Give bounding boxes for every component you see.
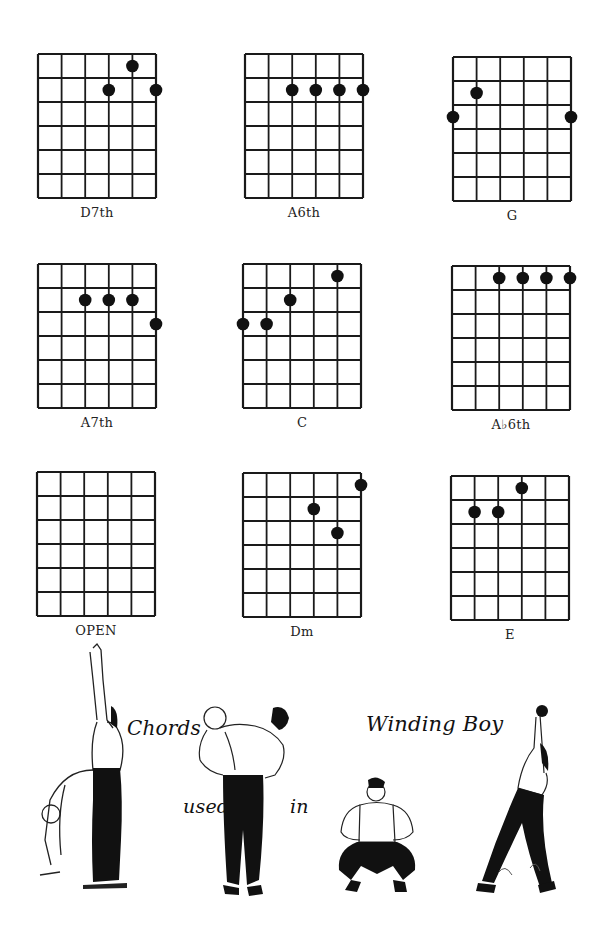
chord-label: OPEN [37,623,155,638]
fretboard-grid [245,54,363,198]
finger-dot [565,111,578,124]
finger-dot [286,84,299,97]
chord-label: A6th [245,205,363,220]
fretboard-grid [243,264,361,408]
finger-dot [310,84,323,97]
finger-dot [126,294,139,307]
finger-dot [150,84,163,97]
chord-label: E [451,627,569,642]
chord-label: A7th [38,415,156,430]
chord-label: G [453,208,571,223]
chord-grid [38,264,156,408]
finger-dot [260,318,273,331]
chord-diagram-g: G [453,57,571,201]
chord-label: A♭6th [452,417,570,432]
fretboard-grid [38,54,156,198]
fretboard-grid [243,473,361,617]
chord-label: Dm [243,624,361,639]
finger-dot [79,294,92,307]
illustration-squatting-figure [335,770,425,900]
finger-dot [284,294,297,307]
chord-diagram-dm: Dm [243,473,361,617]
finger-dot [237,318,250,331]
chord-diagram-c: C [243,264,361,408]
illustration-stretching-figures [35,640,135,895]
chord-label: C [243,415,361,430]
finger-dot [103,84,116,97]
chord-diagram-open: OPEN [37,472,155,616]
finger-dot [447,111,460,124]
chord-grid [37,472,155,616]
chord-diagram-a6th: A6th [245,54,363,198]
chord-grid [245,54,363,198]
finger-dot [308,503,321,516]
chord-label: D7th [38,205,156,220]
chord-diagram-d7th: D7th [38,54,156,198]
finger-dot [331,270,344,283]
finger-dot [357,84,370,97]
caption-chords: Chords [127,716,201,740]
fretboard-grid [452,266,570,410]
finger-dot [564,272,577,285]
illustration-lifting-figures [195,700,295,900]
chord-grid [243,473,361,617]
finger-dot [493,272,506,285]
fretboard-grid [38,264,156,408]
finger-dot [150,318,163,331]
finger-dot [355,479,368,492]
chord-grid [243,264,361,408]
chord-diagram-a7th: A7th [38,264,156,408]
finger-dot [540,272,553,285]
finger-dot [468,506,481,519]
chord-grid [452,266,570,410]
fretboard-grid [451,476,569,620]
finger-dot [470,87,483,100]
chord-grid [453,57,571,201]
chord-diagram-ab6th: A♭6th [452,266,570,410]
fretboard-grid [37,472,155,616]
finger-dot [516,482,529,495]
finger-dot [492,506,505,519]
fretboard-grid [453,57,571,201]
illustration-lunging-figure [470,703,570,898]
finger-dot [333,84,346,97]
finger-dot [103,294,116,307]
chord-grid [451,476,569,620]
chord-grid [38,54,156,198]
finger-dot [126,60,139,73]
finger-dot [331,527,344,540]
chord-diagram-e: E [451,476,569,620]
finger-dot [517,272,530,285]
